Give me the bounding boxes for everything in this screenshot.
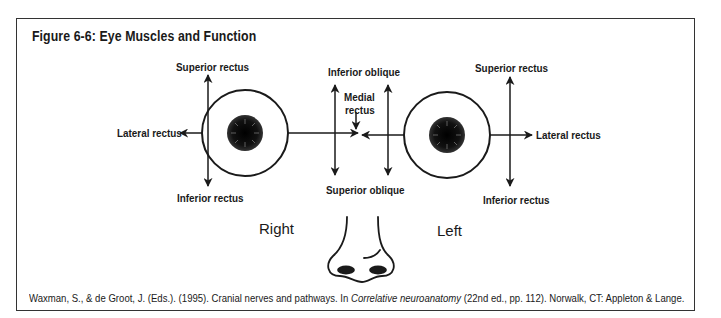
right-eye — [202, 90, 288, 176]
left-lateral-rectus-label: Lateral rectus — [536, 129, 601, 141]
citation-title: Correlative neuroanatomy — [351, 292, 461, 304]
left-inferior-rectus-label: Inferior rectus — [483, 194, 550, 206]
right-side-label: Right — [259, 220, 294, 237]
superior-oblique-label: Superior oblique — [326, 184, 405, 196]
right-inferior-rectus-label: Inferior rectus — [177, 192, 244, 204]
right-superior-rectus-label: Superior rectus — [176, 61, 249, 73]
right-lateral-rectus-label: Lateral rectus — [117, 127, 182, 139]
left-eye — [404, 92, 490, 178]
nose-illustration — [328, 217, 393, 282]
citation-pre: Waxman, S., & de Groot, J. (Eds.). (1995… — [29, 292, 351, 304]
left-side-label: Left — [437, 222, 462, 239]
eye-muscles-diagram — [0, 0, 721, 318]
medial-rectus-label-line1: Medial — [344, 91, 375, 103]
medial-rectus-label-line2: rectus — [345, 104, 375, 116]
citation: Waxman, S., & de Groot, J. (Eds.). (1995… — [29, 292, 684, 304]
left-superior-rectus-label: Superior rectus — [475, 62, 548, 74]
citation-post: (22nd ed., pp. 112). Norwalk, CT: Applet… — [461, 292, 684, 304]
inferior-oblique-label: Inferior oblique — [328, 66, 400, 78]
